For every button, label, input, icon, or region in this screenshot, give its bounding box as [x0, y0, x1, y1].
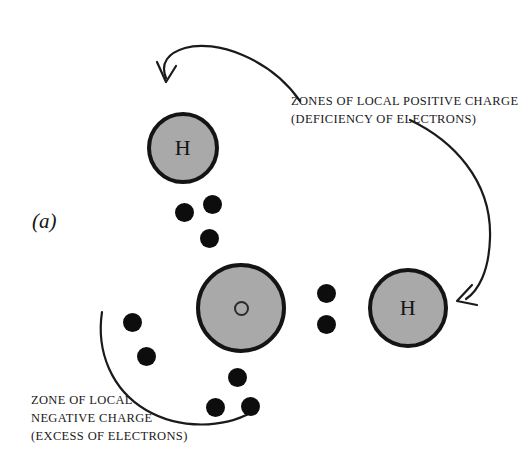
- electron-dot: [137, 347, 156, 366]
- positive-charge-line-2: (DEFICIENCY OF ELECTRONS): [291, 111, 518, 129]
- electron-dot: [241, 397, 260, 416]
- atom-symbol-label: H: [400, 297, 416, 319]
- electron-dot: [203, 195, 222, 214]
- electron-dot: [228, 368, 247, 387]
- electron-dot: [317, 315, 336, 334]
- negative-charge-annotation: ZONE OF LOCAL NEGATIVE CHARGE (EXCESS OF…: [31, 392, 188, 445]
- atom-hydrogen-right: H: [368, 268, 448, 348]
- negative-charge-line-3: (EXCESS OF ELECTRONS): [31, 428, 188, 446]
- positive-charge-annotation: ZONES OF LOCAL POSITIVE CHARGE (DEFICIEN…: [291, 93, 518, 129]
- water-molecule-polarity-diagram: (a) H H ZONES OF LOCAL POSITIVE CHARGE (…: [0, 0, 530, 465]
- electron-dot: [206, 398, 225, 417]
- arrow-to-top-hydrogen: [157, 46, 300, 101]
- atom-symbol-label: H: [175, 137, 191, 159]
- electron-dot: [317, 284, 336, 303]
- panel-label: (a): [32, 209, 57, 234]
- negative-charge-line-2: NEGATIVE CHARGE: [31, 410, 188, 428]
- atom-oxygen-center: [196, 263, 286, 353]
- negative-charge-line-1: ZONE OF LOCAL: [31, 392, 188, 410]
- oxygen-nucleus-ring: [234, 301, 249, 316]
- electron-dot: [200, 229, 219, 248]
- electron-dot: [175, 203, 194, 222]
- positive-charge-line-1: ZONES OF LOCAL POSITIVE CHARGE: [291, 93, 518, 111]
- atom-hydrogen-top: H: [147, 112, 219, 184]
- electron-dot: [123, 313, 142, 332]
